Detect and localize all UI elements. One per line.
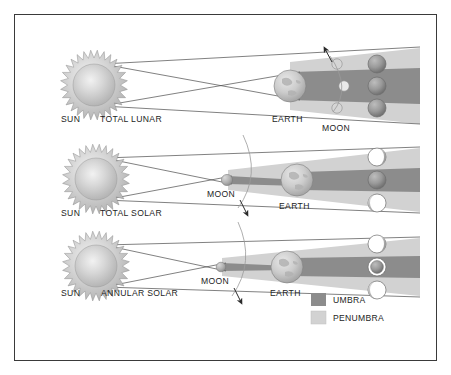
sun-row2 [63, 144, 130, 214]
phase-crescent-left-row3 [368, 281, 386, 299]
legend-swatch-penumbra [311, 311, 326, 324]
sun-label-row2: SUN [61, 208, 80, 218]
phase-crescent-left-row2 [368, 194, 386, 212]
earth-row1 [274, 70, 306, 102]
umbra-region-row2 [302, 168, 420, 192]
earth-label-row1: EARTH [272, 114, 303, 124]
type-label-row2: TOTAL SOLAR [100, 208, 162, 218]
earth-label-row3: EARTH [270, 288, 301, 298]
phase-full-dark-row2 [368, 171, 386, 189]
moon-label-row1: MOON [322, 123, 350, 133]
sun-label-row1: SUN [61, 114, 80, 124]
row-total-lunar: SUN TOTAL LUNAR EARTH MOON [61, 47, 420, 133]
moon-row2 [221, 174, 232, 185]
moon-label-row2: MOON [207, 189, 235, 199]
sun-row1 [61, 50, 128, 120]
eclipse-diagram: SUN TOTAL LUNAR EARTH MOON [0, 0, 451, 375]
phase-crescent-right-row2 [368, 148, 386, 166]
phase-icons-row2 [368, 148, 386, 212]
phase-crescent-right-row3 [368, 235, 386, 253]
phase-annulus-row3 [368, 258, 386, 276]
legend-label-penumbra: PENUMBRA [333, 313, 384, 323]
moon-label-row3: MOON [201, 276, 229, 286]
sun-label-row3: SUN [61, 288, 80, 298]
umbra-region-row1 [292, 68, 420, 104]
row-annular-solar: SUN ANNULAR SOLAR MOON EARTH [61, 222, 420, 302]
phase-icons-row1 [368, 55, 386, 117]
moon-row3 [216, 262, 226, 272]
earth-row2 [281, 164, 313, 196]
orbit-direction-arrow-row2 [240, 200, 247, 214]
umbra-region-row3 [292, 256, 420, 278]
type-label-row3: ANNULAR SOLAR [101, 288, 178, 298]
orbit-direction-arrow-row3 [234, 288, 241, 302]
phase-icons-row3 [368, 235, 386, 299]
diagram-canvas: SUN TOTAL LUNAR EARTH MOON [0, 0, 451, 375]
row-total-solar: SUN TOTAL SOLAR MOON EARTH [61, 135, 420, 218]
earth-label-row2: EARTH [279, 201, 310, 211]
type-label-row1: TOTAL LUNAR [100, 114, 162, 124]
legend-swatch-umbra [311, 293, 326, 306]
earth-row3 [271, 251, 303, 283]
legend-label-umbra: UMBRA [333, 295, 366, 305]
